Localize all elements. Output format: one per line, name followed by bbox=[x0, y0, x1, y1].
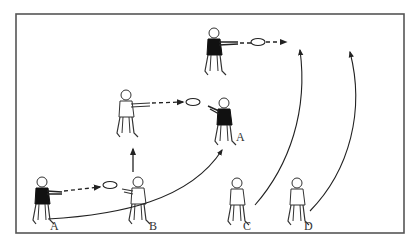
label-d: D bbox=[304, 220, 313, 232]
pass-top bbox=[240, 39, 286, 46]
drill-diagram bbox=[0, 0, 419, 249]
pass-b-to-a bbox=[152, 99, 200, 106]
label-b-start: B bbox=[149, 220, 157, 232]
run-d-curve-arrow bbox=[310, 52, 356, 211]
label-c: C bbox=[243, 220, 251, 232]
disc-icon bbox=[186, 99, 200, 106]
pass-a-to-b bbox=[64, 182, 117, 192]
label-a-start: A bbox=[50, 220, 59, 232]
player-a-start bbox=[33, 177, 62, 224]
disc-icon bbox=[103, 182, 117, 189]
player-c bbox=[228, 178, 249, 225]
player-a-mid bbox=[208, 98, 236, 145]
player-b-start bbox=[122, 177, 150, 224]
player-top-thrower bbox=[205, 28, 238, 75]
disc-icon bbox=[251, 39, 265, 46]
player-b-mid bbox=[117, 90, 150, 137]
label-a-mid: A bbox=[236, 131, 245, 143]
player-d bbox=[288, 178, 309, 225]
